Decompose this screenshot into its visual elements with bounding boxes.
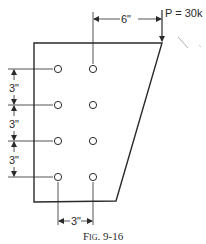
- bracket-plate: [34, 43, 162, 202]
- dimension-vertical-pitch-2: 3": [9, 106, 19, 140]
- figure-caption: Fig. 9-16: [83, 230, 124, 242]
- dimension-eccentricity: 6": [94, 13, 161, 25]
- dimension-label-pitch-3: 3": [9, 154, 19, 166]
- bolt-hole: [89, 137, 96, 144]
- dimension-vertical-pitch-3: 3": [9, 142, 19, 176]
- bolt-hole: [54, 101, 61, 108]
- scan-artifact: [199, 45, 201, 47]
- scan-artifact: [178, 37, 188, 48]
- bracket-diagram: 6" P = 30k 3" 3" 3" 3" Fig. 9-16: [0, 0, 206, 244]
- bolt-hole: [54, 65, 61, 72]
- bolt-group: [54, 65, 96, 180]
- load-arrow: P = 30k: [162, 7, 203, 41]
- dimension-vertical-pitch-1: 3": [9, 70, 19, 104]
- bolt-hole: [89, 101, 96, 108]
- dimension-horizontal-gage: 3": [59, 215, 92, 227]
- dimension-label-pitch-2: 3": [9, 118, 19, 130]
- load-label: P = 30k: [165, 7, 203, 19]
- dimension-label-pitch-1: 3": [9, 82, 19, 94]
- dimension-label-eccentricity: 6": [121, 13, 131, 25]
- bolt-hole: [89, 173, 96, 180]
- bolt-hole: [54, 137, 61, 144]
- bolt-hole: [89, 65, 96, 72]
- dimension-label-gage: 3": [71, 215, 81, 227]
- bolt-hole: [54, 173, 61, 180]
